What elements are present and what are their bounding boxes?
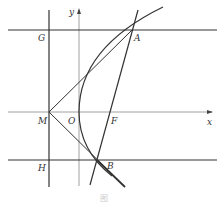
label-x: x [207,117,212,127]
parabola-diagram: y x G A M O F H B 图 [0,0,217,203]
tangent-MA [49,30,132,112]
y-axis-arrow-icon [77,8,81,14]
label-H: H [37,163,46,173]
label-F: F [110,116,118,126]
label-M: M [37,116,48,126]
label-B: B [106,161,114,171]
label-O: O [68,116,76,126]
figure-caption: 图 [100,194,108,203]
x-axis-arrow-icon [207,110,213,114]
label-A: A [133,33,141,43]
label-y: y [68,7,75,17]
chord-AB [90,10,138,185]
label-G: G [38,33,45,43]
parabola-curve [79,7,163,176]
